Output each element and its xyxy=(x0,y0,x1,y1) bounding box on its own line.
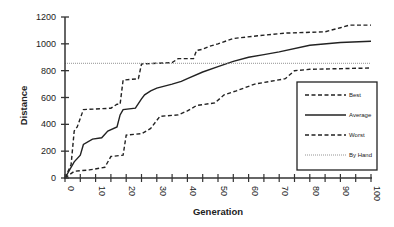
x-tick-label: 70 xyxy=(280,186,290,196)
legend-label-by-hand: By Hand xyxy=(349,152,372,158)
legend-label-worst: Worst xyxy=(349,132,365,138)
x-tick-label: 60 xyxy=(250,186,260,196)
legend-label-average: Average xyxy=(349,112,372,118)
y-tick-label: 0 xyxy=(51,173,56,183)
y-tick-label: 1200 xyxy=(36,12,56,22)
y-tick-label: 1000 xyxy=(36,39,56,49)
x-tick-label: 90 xyxy=(341,186,351,196)
y-tick-label: 200 xyxy=(41,146,56,156)
chart: 020040060080010001200 010203040506070809… xyxy=(0,0,394,227)
x-tick-label: 100 xyxy=(372,186,382,201)
x-axis-title: Generation xyxy=(193,206,243,217)
x-tick-label: 10 xyxy=(97,186,107,196)
x-tick-label: 50 xyxy=(219,186,229,196)
x-tick-label: 20 xyxy=(127,186,137,196)
y-tick-label: 600 xyxy=(41,93,56,103)
y-ticks: 020040060080010001200 xyxy=(36,12,69,183)
x-tick-label: 80 xyxy=(311,186,321,196)
legend: BestAverageWorstBy Hand xyxy=(297,82,377,170)
x-tick-label: 30 xyxy=(158,186,168,196)
y-tick-label: 400 xyxy=(41,119,56,129)
x-tick-label: 40 xyxy=(188,186,198,196)
x-tick-label: 0 xyxy=(66,186,76,191)
y-axis-title: Distance xyxy=(18,86,29,126)
y-tick-label: 800 xyxy=(41,66,56,76)
legend-label-best: Best xyxy=(349,92,361,98)
